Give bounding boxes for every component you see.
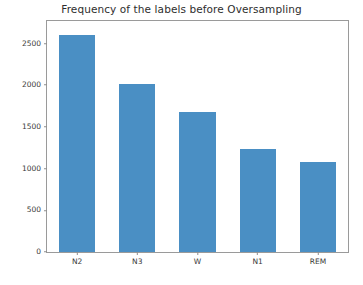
bar-w[interactable]	[179, 112, 215, 252]
bar-n3[interactable]	[119, 84, 155, 252]
x-tick-label: REM	[310, 255, 326, 266]
y-tick: 500	[27, 207, 47, 215]
y-tick: 1000	[22, 165, 47, 173]
y-tick-label: 0	[36, 248, 44, 256]
bar-series	[47, 21, 348, 252]
y-tick-label: 1000	[22, 165, 44, 173]
y-tick-mark	[44, 252, 47, 253]
y-tick-mark	[44, 210, 47, 211]
y-tick: 0	[36, 248, 47, 256]
bar-slot	[47, 21, 107, 252]
plot-axes: 05001000150020002500 N2N3WN1REM	[46, 20, 349, 253]
bar-slot	[288, 21, 348, 252]
y-tick-mark	[44, 126, 47, 127]
bar-slot	[228, 21, 288, 252]
y-tick: 1500	[22, 123, 47, 131]
chart-title: Frequency of the labels before Oversampl…	[0, 3, 363, 15]
x-tick-label: N1	[252, 255, 262, 266]
y-tick: 2500	[22, 40, 47, 48]
y-tick-mark	[44, 85, 47, 86]
x-tick: W	[194, 252, 201, 266]
y-tick: 2000	[22, 81, 47, 89]
y-tick-label: 2000	[22, 81, 44, 89]
plot-area	[47, 21, 348, 252]
x-tick: N3	[132, 252, 142, 266]
x-tick: N1	[252, 252, 262, 266]
x-tick-label: N3	[132, 255, 142, 266]
y-tick-label: 1500	[22, 123, 44, 131]
bar-slot	[167, 21, 227, 252]
x-tick-label: W	[194, 255, 201, 266]
chart-figure: Frequency of the labels before Oversampl…	[0, 0, 363, 285]
y-tick-label: 2500	[22, 40, 44, 48]
y-tick-mark	[44, 168, 47, 169]
x-tick: REM	[310, 252, 326, 266]
bar-n2[interactable]	[59, 35, 95, 252]
bar-slot	[107, 21, 167, 252]
y-tick-mark	[44, 43, 47, 44]
x-tick-label: N2	[72, 255, 82, 266]
x-tick: N2	[72, 252, 82, 266]
y-tick-label: 500	[27, 207, 44, 215]
bar-rem[interactable]	[300, 162, 336, 252]
bar-n1[interactable]	[240, 149, 276, 252]
